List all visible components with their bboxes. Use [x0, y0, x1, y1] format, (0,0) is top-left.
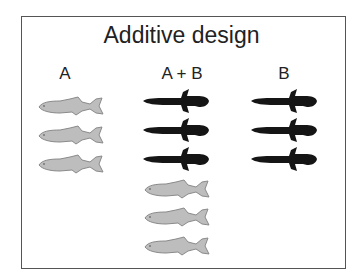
fish-species-a-icon — [142, 204, 212, 230]
fish-species-a-icon — [142, 233, 212, 259]
fish-species-b-icon — [141, 88, 211, 114]
fish-species-b-icon — [249, 88, 319, 114]
column-label-a-plus-b: A + B — [142, 64, 222, 84]
fish-species-b-icon — [249, 146, 319, 172]
column-label-a: A — [25, 64, 105, 84]
fish-species-a-icon — [142, 176, 212, 202]
fish-species-a-icon — [36, 151, 106, 177]
fish-species-a-icon — [36, 122, 106, 148]
fish-species-b-icon — [141, 146, 211, 172]
fish-species-b-icon — [141, 117, 211, 143]
fish-species-b-icon — [249, 117, 319, 143]
column-label-b: B — [244, 64, 324, 84]
diagram-title: Additive design — [0, 22, 363, 49]
fish-species-a-icon — [36, 93, 106, 119]
